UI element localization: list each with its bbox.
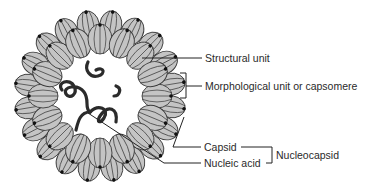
label-morphological-unit: Morphological unit or capsomere [205,80,357,92]
capsid-capsomeres [13,9,188,184]
label-structural-unit: Structural unit [205,52,270,64]
label-capsid: Capsid [204,141,237,153]
nucleic-acid-strand [61,62,120,130]
label-nucleocapsid: Nucleocapsid [276,149,339,161]
label-nucleic-acid: Nucleic acid [204,157,261,169]
